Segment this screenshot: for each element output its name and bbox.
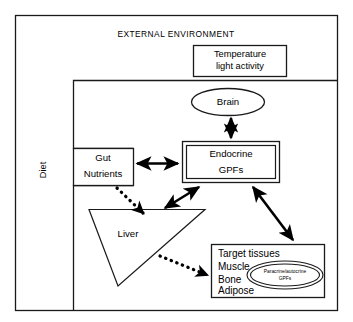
diagram-root: EXTERNAL ENVIRONMENT Temperature light a…	[0, 0, 353, 322]
liver-triangle	[89, 210, 205, 287]
brain-label: Brain	[217, 96, 239, 107]
diet-label: Diet	[38, 161, 48, 178]
liver-label: Liver	[118, 228, 140, 239]
target-tissue-adipose: Adipose	[218, 285, 255, 296]
paracrine-line-2: GPFs	[279, 276, 292, 281]
endocrine-line-1: Endocrine	[209, 148, 252, 159]
gut-line-1: Gut	[95, 152, 111, 163]
target-tissues-heading: Target tissues	[218, 248, 280, 259]
external-environment-label: EXTERNAL ENVIRONMENT	[117, 29, 234, 39]
arrow-liver-target-tissues-dotted	[160, 256, 207, 275]
paracrine-gpfs-ellipse-inner	[251, 264, 320, 286]
paracrine-line-1: Paracrine/autocrine	[264, 269, 307, 274]
arrow-endocrine-target-tissues	[253, 187, 293, 240]
target-tissue-bone: Bone	[218, 274, 242, 285]
endocrine-line-2: GPFs	[219, 164, 244, 175]
stimuli-line-2: light activity	[216, 61, 264, 71]
stimuli-line-1: Temperature	[214, 49, 266, 59]
arrow-endocrine-liver	[165, 187, 199, 208]
target-tissue-muscle: Muscle	[218, 261, 250, 272]
gut-line-2: Nutrients	[84, 168, 123, 179]
physiology-flow-diagram: EXTERNAL ENVIRONMENT Temperature light a…	[0, 0, 353, 322]
